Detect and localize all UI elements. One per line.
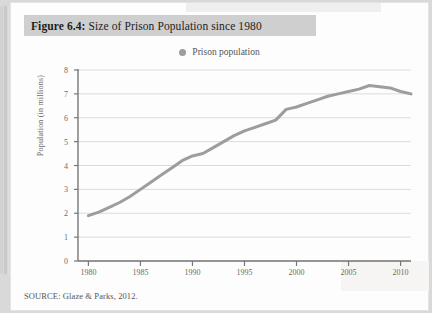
x-tick-label-2000: 2000 — [289, 268, 305, 277]
source-note: SOURCE: Glaze & Parks, 2012. — [24, 291, 138, 301]
figure-sheet: Figure 6.4: Size of Prison Population si… — [11, 3, 428, 310]
x-tick-label-1995: 1995 — [237, 268, 253, 277]
y-tick-label-7: 7 — [50, 89, 68, 98]
x-axis-ticks: 1980198519901995200020052010 — [11, 263, 428, 283]
x-tick-label-2005: 2005 — [341, 268, 357, 277]
x-tick-label-1990: 1990 — [184, 268, 200, 277]
y-tick-label-2: 2 — [50, 209, 68, 218]
x-tick-label-1980: 1980 — [80, 268, 96, 277]
page-background: Figure 6.4: Size of Prison Population si… — [0, 0, 432, 313]
y-tick-label-5: 5 — [50, 137, 68, 146]
x-tick-label-2010: 2010 — [393, 268, 409, 277]
y-tick-label-8: 8 — [50, 66, 68, 75]
series-line-0 — [88, 86, 411, 216]
y-tick-label-1: 1 — [50, 233, 68, 242]
y-tick-label-4: 4 — [50, 161, 68, 170]
page-edge-left-1 — [0, 6, 3, 274]
x-tick-label-1985: 1985 — [132, 268, 148, 277]
y-tick-label-6: 6 — [50, 113, 68, 122]
y-axis-title: Population (in millions) — [36, 56, 45, 176]
y-tick-label-3: 3 — [50, 185, 68, 194]
page-edge-left-2 — [4, 6, 7, 274]
line-chart: Population (in millions) 012345678 19801… — [11, 3, 428, 310]
